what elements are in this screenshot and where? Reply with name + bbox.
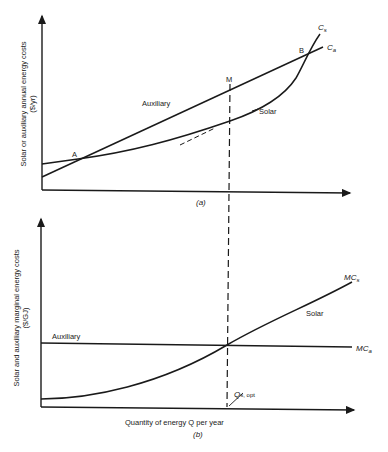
ca-label: Ca — [327, 43, 337, 53]
solar-label-b: Solar — [306, 309, 324, 318]
caption-a: (a) — [196, 198, 206, 207]
auxiliary-label-a: Auxiliary — [142, 99, 171, 108]
optimum-dashed-line — [227, 84, 230, 407]
mcs-label: MCs — [344, 273, 359, 283]
auxiliary-label-b: Auxiliary — [52, 332, 81, 341]
mc-auxiliary-line — [41, 343, 352, 347]
solar-auxiliary-cost-diagram: A B M Auxiliary Solar Cs Ca (a) Solar or… — [0, 0, 388, 452]
svg-text:Solar or auxiliary annual ener: Solar or auxiliary annual energy costs — [19, 41, 28, 166]
y-axis-label-a: Solar or auxiliary annual energy costs (… — [19, 41, 37, 166]
tangent-line — [180, 128, 215, 145]
point-m-label: M — [226, 75, 232, 84]
solar-label-a: Solar — [259, 107, 277, 116]
point-a-label: A — [72, 150, 77, 159]
panel-a: A B M Auxiliary Solar Cs Ca (a) Solar or… — [19, 16, 350, 207]
panel-b: Auxiliary Solar MCs MCa Qs, opt Quantity… — [12, 219, 372, 439]
svg-text:($/yr): ($/yr) — [28, 95, 37, 113]
point-b-label: B — [299, 46, 304, 55]
svg-text:($/GJ): ($/GJ) — [21, 307, 30, 328]
svg-text:Solar and auxiliary marginal e: Solar and auxiliary marginal energy cost… — [12, 249, 21, 386]
q-opt-label: Qs, opt — [234, 390, 255, 399]
caption-b: (b) — [193, 430, 203, 439]
diagram-canvas: A B M Auxiliary Solar Cs Ca (a) Solar or… — [0, 0, 388, 452]
x-axis-a — [42, 190, 350, 193]
mca-label: MCa — [356, 344, 372, 354]
y-axis-label-b: Solar and auxiliary marginal energy cost… — [12, 249, 30, 386]
cs-label: Cs — [318, 23, 327, 33]
x-axis-label-b: Quantity of energy Q per year — [125, 418, 224, 427]
x-axis-b — [41, 407, 354, 410]
mc-solar-curve — [41, 282, 352, 399]
